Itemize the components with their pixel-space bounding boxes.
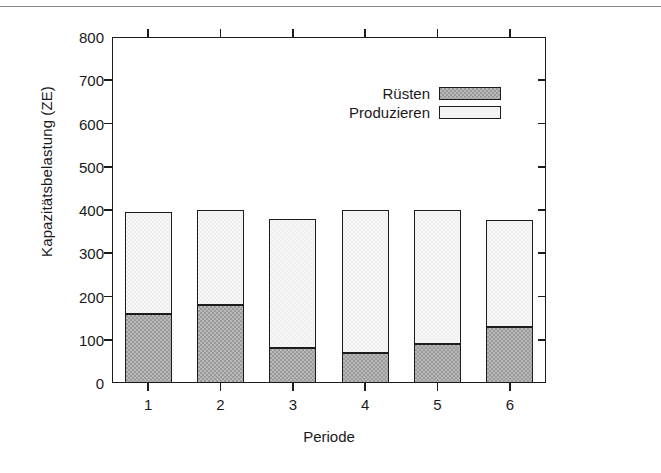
y-tick-label: 500 <box>60 159 104 174</box>
bar-stack <box>197 210 244 383</box>
y-tick-mark-right <box>538 296 546 298</box>
bar-segment-ruesten <box>269 348 316 383</box>
y-tick-mark-left <box>104 209 112 211</box>
legend-swatch-produzieren <box>439 106 501 119</box>
x-tick-mark-bottom <box>364 383 366 391</box>
legend-item-ruesten: Rüsten <box>265 84 501 102</box>
bar-segment-ruesten <box>197 305 244 383</box>
x-tick-mark-top <box>437 29 439 37</box>
y-axis-tick-labels: 0100200300400500600700800 <box>56 0 104 473</box>
bar-segment-ruesten <box>414 344 461 383</box>
x-tick-mark-top <box>292 29 294 37</box>
bar-segment-produzieren <box>414 210 461 344</box>
bar-stack <box>342 210 389 383</box>
y-tick-label: 300 <box>60 246 104 261</box>
bar-stack <box>414 210 461 383</box>
legend-label-ruesten: Rüsten <box>382 85 430 102</box>
x-tick-mark-bottom <box>220 383 222 391</box>
legend-label-produzieren: Produzieren <box>349 104 430 121</box>
x-tick-mark-bottom <box>509 383 511 391</box>
bar-segment-produzieren <box>125 212 172 314</box>
bar-segment-produzieren <box>486 220 533 327</box>
y-tick-label: 600 <box>60 116 104 131</box>
bar-stack <box>125 212 172 383</box>
x-tick-label: 2 <box>201 396 241 413</box>
bar-segment-ruesten <box>342 353 389 383</box>
x-tick-mark-bottom <box>292 383 294 391</box>
legend-item-produzieren: Produzieren <box>265 103 501 121</box>
x-tick-label: 5 <box>418 396 458 413</box>
y-tick-label: 200 <box>60 289 104 304</box>
y-tick-mark-right <box>538 252 546 254</box>
y-tick-mark-right <box>538 166 546 168</box>
bar-stack <box>269 219 316 383</box>
y-tick-mark-right <box>538 209 546 211</box>
y-tick-mark-right <box>538 339 546 341</box>
bar-segment-produzieren <box>269 219 316 349</box>
y-tick-mark-right <box>538 123 546 125</box>
figure-canvas: Kapazitätsbelastung (ZE) 010020030040050… <box>0 0 661 473</box>
x-tick-label: 3 <box>273 396 313 413</box>
y-tick-mark-left <box>104 166 112 168</box>
legend: Rüsten Produzieren <box>265 84 501 122</box>
x-tick-mark-top <box>509 29 511 37</box>
y-tick-label: 700 <box>60 73 104 88</box>
x-tick-label: 4 <box>345 396 385 413</box>
y-tick-label: 100 <box>60 332 104 347</box>
legend-swatch-ruesten <box>439 87 501 100</box>
y-tick-label: 800 <box>60 30 104 45</box>
y-tick-mark-left <box>104 123 112 125</box>
x-tick-mark-top <box>220 29 222 37</box>
y-tick-mark-right <box>538 79 546 81</box>
bar-segment-produzieren <box>197 210 244 305</box>
x-tick-label: 6 <box>490 396 530 413</box>
x-tick-mark-top <box>364 29 366 37</box>
bar-stack <box>486 220 533 383</box>
y-tick-mark-left <box>104 296 112 298</box>
y-tick-mark-left <box>104 339 112 341</box>
x-tick-mark-top <box>147 29 149 37</box>
x-axis-title: Periode <box>112 428 546 445</box>
x-tick-label: 1 <box>128 396 168 413</box>
y-tick-mark-left <box>104 252 112 254</box>
bar-segment-ruesten <box>125 314 172 383</box>
y-tick-mark-left <box>104 79 112 81</box>
y-tick-label: 400 <box>60 203 104 218</box>
x-tick-mark-bottom <box>437 383 439 391</box>
bar-segment-produzieren <box>342 210 389 353</box>
bar-segment-ruesten <box>486 327 533 383</box>
plot-area: Rüsten Produzieren <box>112 37 546 383</box>
y-axis-title: Kapazitätsbelastung (ZE) <box>38 22 55 322</box>
y-tick-label: 0 <box>60 376 104 391</box>
x-tick-mark-bottom <box>147 383 149 391</box>
